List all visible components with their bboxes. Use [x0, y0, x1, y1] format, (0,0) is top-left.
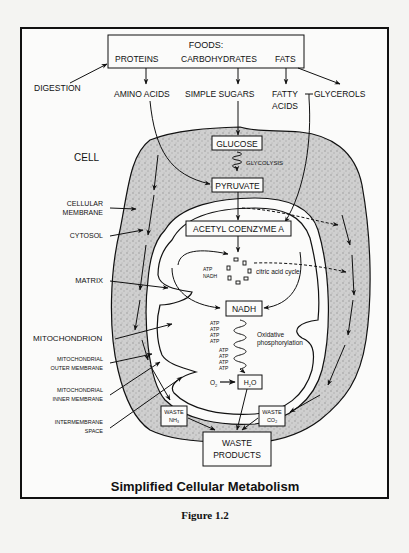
outer-membrane-label-2: OUTER MEMBRANE: [50, 365, 103, 371]
oxphos-label-1: Oxidative: [257, 331, 284, 338]
inner-membrane-label-1: MITOCHONDRIAL: [57, 387, 103, 393]
oxphos-label-2: phosphorylation: [257, 339, 303, 347]
glucose-label: GLUCOSE: [216, 139, 258, 149]
cycle-nadh-label: NADH: [203, 273, 218, 279]
outer-membrane-label-1: MITOCHONDRIAL: [57, 356, 103, 362]
mitochondrion-label: MITOCHONDRION: [33, 334, 102, 343]
atp-group-1: ATP ATP ATP ATP: [210, 320, 220, 344]
foods-header: FOODS:: [189, 40, 224, 50]
cytosol-label: CYTOSOL: [70, 232, 103, 239]
cellular-membrane-label-2: MEMBRANE: [63, 209, 104, 216]
pyruvate-label: PYRUVATE: [215, 181, 260, 191]
foods-fats: FATS: [275, 54, 296, 64]
foods-carbohydrates: CARBOHYDRATES: [181, 54, 257, 64]
amino-acids-label: AMINO ACIDS: [114, 89, 170, 99]
nadh-label: NADH: [232, 304, 256, 314]
simple-sugars-label: SIMPLE SUGARS: [185, 89, 255, 99]
waste-co2-line1: WASTE: [262, 409, 282, 415]
cycle-atp-label: ATP: [203, 266, 213, 272]
cellular-membrane-label-1: CELLULAR: [67, 200, 103, 207]
acetyl-coa-label: ACETYL COENZYME A: [193, 224, 284, 234]
figure-title: Simplified Cellular Metabolism: [111, 479, 300, 494]
figure-caption: Figure 1.2: [181, 509, 229, 521]
inner-membrane-label-2: INNER MEMBRANE: [53, 396, 104, 402]
glycolysis-label: GLYCOLYSIS: [246, 160, 283, 166]
digestion-label: DIGESTION: [34, 83, 81, 93]
cellular-metabolism-diagram: FOODS: PROTEINS CARBOHYDRATES FATS DIGES…: [0, 0, 409, 553]
intermembrane-label-2: SPACE: [85, 428, 104, 434]
svg-text:ATP: ATP: [219, 365, 229, 371]
waste-products-line1: WASTE: [222, 438, 252, 448]
atp-group-2: ATP ATP ATP ATP: [219, 347, 229, 371]
waste-products-line2: PRODUCTS: [213, 450, 261, 460]
matrix-label: MATRIX: [75, 276, 103, 285]
foods-proteins: PROTEINS: [115, 54, 159, 64]
citric-cycle-label: citric acid cycle: [256, 268, 300, 276]
svg-text:ATP: ATP: [210, 338, 220, 344]
fatty-acids-label-2: ACIDS: [272, 101, 298, 111]
fatty-acids-label-1: FATTY: [272, 89, 298, 99]
intermembrane-label-1: INTERMEMBRANE: [55, 419, 104, 425]
waste-nh3-line1: WASTE: [164, 409, 184, 415]
cell-label: CELL: [74, 152, 99, 163]
glycerols-label: GLYCEROLS: [314, 89, 366, 99]
